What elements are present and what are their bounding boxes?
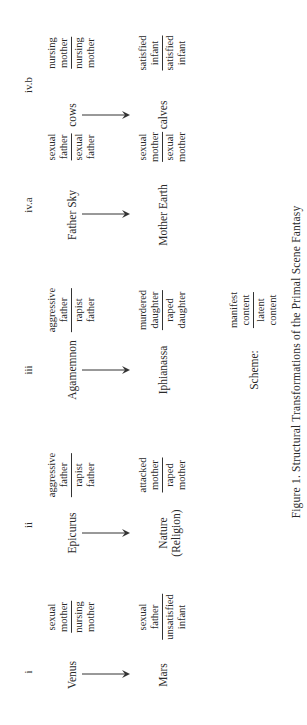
fraction-text: father [85, 135, 96, 159]
fraction-text: raped [164, 463, 175, 486]
fraction-text: infant [176, 605, 187, 630]
top-name-cows: cows [66, 103, 79, 127]
fraction-bar [71, 601, 72, 633]
fraction-text: sexual [46, 604, 57, 631]
fraction-text: father [58, 463, 69, 487]
fraction-text: content [240, 295, 251, 326]
column-label-i: i [22, 670, 34, 673]
fraction-text: nursing [73, 37, 84, 69]
fraction-text: infant [149, 41, 160, 66]
fraction-text: unsatisfied [164, 594, 175, 640]
fraction-text: content [267, 295, 278, 326]
down-arrow-icon [82, 669, 132, 679]
fraction-text: satisfied [137, 36, 148, 71]
down-arrow-icon [82, 528, 132, 538]
fraction-text: father [58, 298, 69, 322]
fraction-iva-bottom: sexualmother sexualmother [137, 132, 188, 162]
fraction-text: sexual [164, 134, 175, 161]
fraction-text: rapist [73, 463, 84, 486]
top-name-venus: Venus [66, 661, 79, 689]
rotated-figure-page: i Venus Mars sexualmother nursingmother … [0, 0, 307, 725]
bottom-name-mars: Mars [157, 663, 170, 687]
fraction-text: aggressive [46, 288, 57, 332]
fraction-text: mother [85, 38, 96, 68]
fraction-bar [162, 594, 163, 640]
fraction-ii-top: aggressivefather rapistfather [46, 453, 97, 497]
fraction-ii-bottom: attackedmother rapedmother [137, 458, 188, 493]
scheme-fraction: manifestcontent latentcontent [228, 292, 279, 328]
fraction-bar [162, 132, 163, 162]
fraction-text: father [149, 605, 160, 629]
fraction-text: sexual [137, 134, 148, 161]
fraction-text: rapist [73, 298, 84, 321]
figure-caption: Figure 1. Structural Transformations of … [290, 206, 302, 519]
fraction-text: latent [255, 298, 266, 321]
fraction-iii-top: aggressivefather rapistfather [46, 288, 97, 332]
fraction-bar [162, 36, 163, 71]
fraction-i-top: sexualmother nursingmother [46, 601, 97, 633]
fraction-text: sexual [73, 134, 84, 161]
bottom-name-nature: Nature (Religion) [157, 509, 183, 556]
top-name-epicurus: Epicurus [66, 513, 79, 554]
fraction-text: mother [149, 460, 160, 490]
fraction-ivb-bottom: satisfiedinfant satisfiedinfant [137, 36, 188, 71]
fraction-iii-bottom: murdereddaughter rapeddaughter [137, 290, 188, 330]
fraction-bar [71, 134, 72, 161]
fraction-text: mother [58, 602, 69, 632]
fraction-bar [71, 453, 72, 497]
column-label-iii: iii [22, 365, 34, 374]
fraction-text: sexual [46, 134, 57, 161]
fraction-text: nursing [73, 601, 84, 633]
bottom-name-mother-earth: Mother Earth [157, 184, 170, 246]
fraction-text: daughter [149, 292, 160, 329]
fraction-bar [71, 288, 72, 332]
fraction-text: sexual [137, 604, 148, 631]
fraction-text: mother [85, 602, 96, 632]
bottom-name-subtext: (Religion) [170, 509, 182, 556]
fraction-text: father [85, 463, 96, 487]
bottom-name-iphianassa: Iphianassa [157, 346, 170, 395]
top-name-agamemnon: Agamemnon [66, 340, 79, 399]
fraction-bar [162, 290, 163, 330]
column-label-ii: ii [22, 522, 34, 528]
fraction-text: father [58, 135, 69, 159]
fraction-text: mother [176, 132, 187, 162]
fraction-text: murdered [137, 290, 148, 330]
down-arrow-icon [82, 110, 132, 120]
column-label-iv-b: iv.b [22, 77, 34, 93]
scheme-label: Scheme: [248, 350, 261, 390]
bottom-name-calves: calves [157, 101, 170, 130]
fraction-text: daughter [176, 292, 187, 329]
fraction-text: raped [164, 298, 175, 321]
fraction-text: manifest [228, 292, 239, 328]
fraction-text: mother [58, 38, 69, 68]
fraction-i-bottom: sexualfather unsatisfiedinfant [137, 594, 188, 640]
fraction-text: attacked [137, 458, 148, 493]
fraction-iva-top: sexualfather sexualfather [46, 134, 97, 161]
fraction-text: mother [176, 460, 187, 490]
fraction-text: nursing [46, 37, 57, 69]
fraction-bar [162, 458, 163, 493]
down-arrow-icon [82, 365, 132, 375]
fraction-text: infant [176, 41, 187, 66]
down-arrow-icon [82, 209, 132, 219]
fraction-text: mother [149, 132, 160, 162]
top-name-father-sky: Father Sky [66, 190, 79, 240]
column-label-iv-a: iv.a [22, 197, 34, 212]
fraction-bar [71, 37, 72, 69]
fraction-text: aggressive [46, 453, 57, 497]
fraction-bar [253, 292, 254, 328]
fraction-text: satisfied [164, 36, 175, 71]
fraction-ivb-top: nursingmother nursingmother [46, 37, 97, 69]
fraction-text: father [85, 298, 96, 322]
bottom-name-text: Nature [157, 517, 169, 548]
